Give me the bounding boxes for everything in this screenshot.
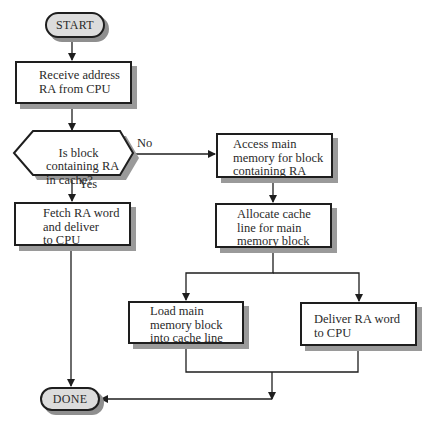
edge-join <box>186 344 358 372</box>
load-main-memory-label: Load main memory block into cache line <box>150 305 223 346</box>
allocate-cache-line-box: Allocate cache line for main memory bloc… <box>215 203 332 248</box>
receive-address-box: Receive address RA from CPU <box>15 61 132 104</box>
receive-address-label: Receive address RA from CPU <box>39 69 120 96</box>
done-terminal: DONE <box>40 387 100 411</box>
deliver-ra-word-label: Deliver RA word to CPU <box>314 313 400 340</box>
fetch-ra-word-label: Fetch RA word and deliver to CPU <box>43 207 119 248</box>
deliver-ra-word-box: Deliver RA word to CPU <box>300 302 417 346</box>
start-label: START <box>56 18 94 33</box>
no-label: No <box>137 136 152 151</box>
fetch-ra-word-box: Fetch RA word and deliver to CPU <box>14 202 131 246</box>
edge-allocate-deliver <box>273 273 359 301</box>
access-main-memory-label: Access main memory for block containing … <box>233 138 323 179</box>
start-terminal: START <box>45 12 105 38</box>
access-main-memory-box: Access main memory for block containing … <box>216 133 333 178</box>
done-label: DONE <box>53 392 88 407</box>
edge-allocate-load <box>186 248 273 300</box>
yes-label: Yes <box>79 177 97 192</box>
flowchart-canvas: START Receive address RA from CPU Is blo… <box>0 0 430 424</box>
load-main-memory-box: Load main memory block into cache line <box>128 301 244 344</box>
allocate-cache-line-label: Allocate cache line for main memory bloc… <box>237 208 311 249</box>
